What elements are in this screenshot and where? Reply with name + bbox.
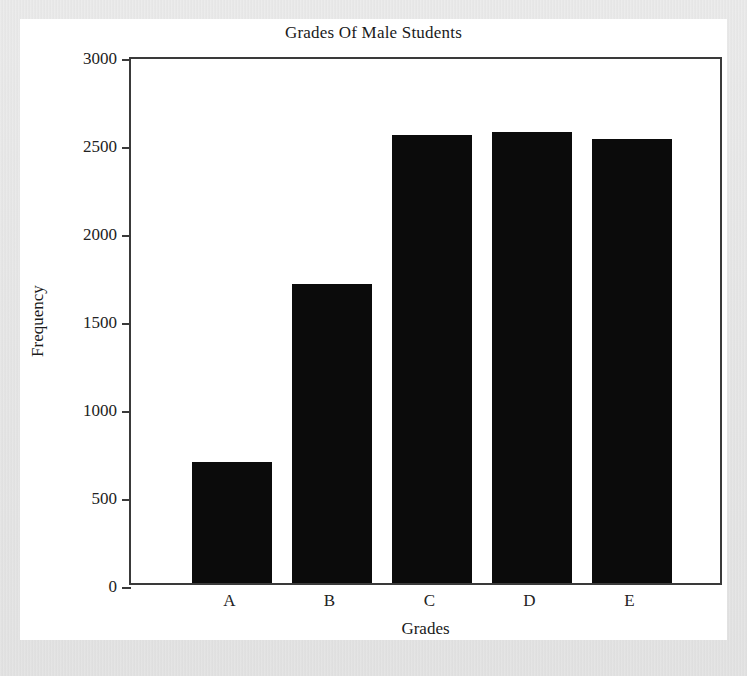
y-axis-tick-label: 3000 <box>83 49 117 69</box>
bar-d <box>492 132 572 583</box>
x-axis-title: Grades <box>129 619 722 639</box>
bar-b <box>292 284 372 583</box>
x-axis-tick-label: E <box>624 591 634 611</box>
y-axis-title: Frequency <box>28 285 48 357</box>
y-axis-tick-label: 2500 <box>83 137 117 157</box>
bar-e <box>592 139 672 583</box>
y-axis-tick-label: 1000 <box>83 401 117 421</box>
bar-c <box>392 135 472 583</box>
plot-area: 050010001500200025003000 <box>129 57 722 585</box>
x-axis-tick-label: B <box>324 591 335 611</box>
bar-a <box>192 462 272 583</box>
y-axis-tick-label: 2000 <box>83 225 117 245</box>
y-axis-tick-mark <box>122 59 131 61</box>
x-axis-tick-label: D <box>523 591 535 611</box>
chart-title: Grades Of Male Students <box>20 23 727 43</box>
plot-inner: 050010001500200025003000 <box>131 59 720 583</box>
y-axis-tick-label: 500 <box>92 489 118 509</box>
y-axis-tick-mark <box>122 411 131 413</box>
y-axis-tick-mark <box>122 587 131 589</box>
y-axis-tick-mark <box>122 323 131 325</box>
y-axis-tick-label: 0 <box>109 577 118 597</box>
y-axis-tick-label: 1500 <box>83 313 117 333</box>
chart-figure: Grades Of Male Students Frequency 050010… <box>20 19 727 640</box>
y-axis-tick-mark <box>122 499 131 501</box>
x-axis-tick-label: C <box>424 591 435 611</box>
scanned-page-background: Grades Of Male Students Frequency 050010… <box>0 0 747 676</box>
y-axis-tick-mark <box>122 147 131 149</box>
y-axis-tick-mark <box>122 235 131 237</box>
x-axis-tick-label: A <box>223 591 235 611</box>
